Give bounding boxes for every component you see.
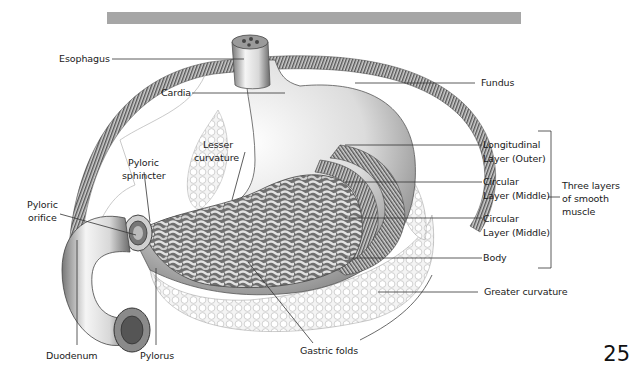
label-pyloric-sphincter-line2: sphincter	[122, 170, 165, 182]
label-longitudinal-line1: Longitudinal	[483, 139, 540, 151]
label-lesser-curvature-line1: Lesser	[203, 139, 233, 151]
label-pyloric-orifice-line2: orifice	[28, 212, 57, 224]
label-fundus: Fundus	[481, 77, 514, 89]
label-body: Body	[483, 252, 507, 264]
label-duodenum: Duodenum	[46, 350, 98, 362]
label-three-layers-line1: Three layers	[562, 180, 620, 192]
label-longitudinal-line2: Layer (Outer)	[483, 153, 546, 165]
label-pyloric-orifice-line1: Pyloric	[27, 199, 58, 211]
label-greater-curvature: Greater curvature	[484, 286, 567, 298]
page-number: 25	[603, 342, 630, 366]
label-three-layers-line2: of smooth	[562, 193, 609, 205]
label-three-layers-line3: muscle	[562, 206, 595, 218]
label-circular-b-line2: Layer (Middle)	[483, 227, 550, 239]
label-lesser-curvature-line2: curvature	[194, 152, 239, 164]
label-circular-b-line1: Circular	[483, 213, 519, 225]
stomach-anatomy-diagram: Esophagus Cardia Fundus Lesser curvature…	[0, 0, 642, 379]
label-gastric-folds: Gastric folds	[300, 345, 358, 357]
label-pylorus: Pylorus	[140, 350, 174, 362]
label-esophagus: Esophagus	[59, 53, 110, 65]
label-pyloric-sphincter-line1: Pyloric	[128, 157, 159, 169]
label-circular-a-line1: Circular	[483, 176, 519, 188]
label-circular-a-line2: Layer (Middle)	[483, 190, 550, 202]
label-cardia: Cardia	[161, 87, 191, 99]
